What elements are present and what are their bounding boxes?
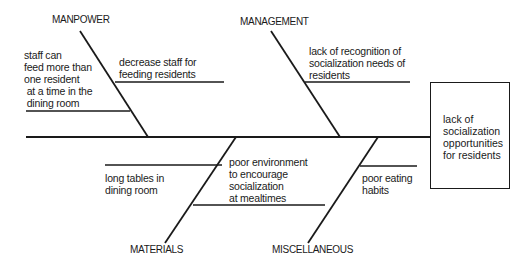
cause-manpower-1: decrease staff for feeding residents xyxy=(119,56,196,80)
bone-materials xyxy=(165,137,236,243)
category-materials: MATERIALS xyxy=(130,244,183,255)
cause-materials-2: poor environment to encourage socializat… xyxy=(229,156,308,204)
cause-miscellaneous-1: poor eating habits xyxy=(362,172,412,196)
cause-management-1: lack of recognition of socialization nee… xyxy=(309,45,405,81)
effect-label: lack of socialization opportunities for … xyxy=(443,113,503,161)
category-manpower: MANPOWER xyxy=(52,14,110,25)
cause-manpower-2: staff can feed more than one resident at… xyxy=(24,49,92,109)
cause-materials-1: long tables in dining room xyxy=(105,172,164,196)
category-management: MANAGEMENT xyxy=(240,16,309,27)
effect-box: lack of socialization opportunities for … xyxy=(430,82,510,189)
category-miscellaneous: MISCELLANEOUS xyxy=(272,244,353,255)
